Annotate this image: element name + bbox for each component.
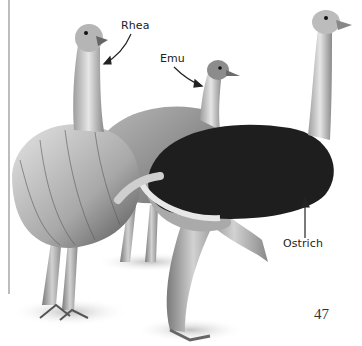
ostrich-drawing (118, 10, 352, 340)
rhea-drawing (12, 24, 140, 320)
emu-label: Emu (160, 52, 185, 65)
ostrich-label: Ostrich (283, 237, 323, 250)
rhea-label: Rhea (121, 19, 150, 32)
page-number: 47 (314, 306, 329, 323)
